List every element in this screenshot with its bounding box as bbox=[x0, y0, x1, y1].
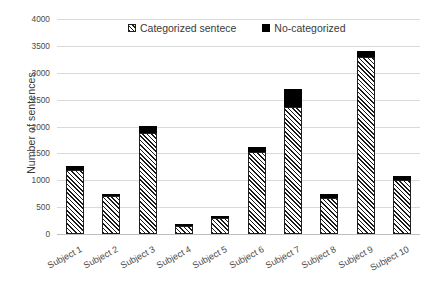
bar-group[interactable] bbox=[393, 176, 411, 234]
bar-segment-categorized[interactable] bbox=[211, 218, 229, 234]
bar-group[interactable] bbox=[284, 89, 302, 234]
bar-segment-no-categorized[interactable] bbox=[211, 216, 229, 218]
bar-segment-categorized[interactable] bbox=[175, 226, 193, 234]
bar-segment-categorized[interactable] bbox=[248, 152, 266, 234]
legend-label: Categorized sentece bbox=[140, 22, 236, 34]
x-tick-label: Subject 4 bbox=[149, 244, 193, 273]
bar-segment-no-categorized[interactable] bbox=[248, 147, 266, 152]
y-tick-label: 1000 bbox=[16, 175, 50, 185]
x-tick-label: Subject 5 bbox=[185, 244, 229, 273]
bar-segment-categorized[interactable] bbox=[357, 57, 375, 234]
legend-label: No-categorized bbox=[274, 22, 345, 34]
x-tick-label: Subject 2 bbox=[77, 244, 121, 273]
hatch-swatch-icon bbox=[128, 24, 136, 32]
bar-segment-categorized[interactable] bbox=[284, 107, 302, 234]
x-tick-label: Subject 6 bbox=[222, 244, 266, 273]
y-tick-label: 2500 bbox=[16, 95, 50, 105]
y-tick-label: 4000 bbox=[16, 14, 50, 24]
y-tick-label: 1500 bbox=[16, 148, 50, 158]
y-tick-label: 0 bbox=[16, 229, 50, 239]
bar-group[interactable] bbox=[357, 51, 375, 234]
bar-segment-no-categorized[interactable] bbox=[102, 194, 120, 196]
bar-group[interactable] bbox=[175, 226, 193, 234]
y-tick-label: 500 bbox=[16, 202, 50, 212]
bar-segment-categorized[interactable] bbox=[139, 133, 157, 234]
x-axis-tick-labels: Subject 1Subject 2Subject 3Subject 4Subj… bbox=[57, 238, 420, 292]
legend-entry[interactable]: Categorized sentece bbox=[128, 22, 236, 34]
x-tick-label: Subject 3 bbox=[113, 244, 157, 273]
legend: Categorized senteceNo-categorized bbox=[128, 22, 346, 34]
x-tick-label: Subject 8 bbox=[294, 244, 338, 273]
bar-segment-categorized[interactable] bbox=[66, 170, 84, 234]
y-tick-label: 2000 bbox=[16, 122, 50, 132]
x-tick-label: Subject 7 bbox=[258, 244, 302, 273]
solid-swatch-icon bbox=[262, 24, 270, 32]
bar-segment-no-categorized[interactable] bbox=[175, 224, 193, 226]
plot-area bbox=[57, 19, 420, 234]
bar-segment-categorized[interactable] bbox=[102, 196, 120, 234]
bar-group[interactable] bbox=[66, 166, 84, 234]
bar-segment-no-categorized[interactable] bbox=[357, 51, 375, 56]
bar-segment-categorized[interactable] bbox=[393, 180, 411, 234]
bar-group[interactable] bbox=[102, 195, 120, 234]
bar-group[interactable] bbox=[139, 126, 157, 234]
y-tick-label: 3000 bbox=[16, 68, 50, 78]
bars-layer bbox=[57, 19, 420, 234]
bar-segment-no-categorized[interactable] bbox=[393, 176, 411, 180]
bar-segment-categorized[interactable] bbox=[320, 198, 338, 234]
bar-segment-no-categorized[interactable] bbox=[66, 166, 84, 170]
bar-segment-no-categorized[interactable] bbox=[139, 126, 157, 133]
bar-group[interactable] bbox=[320, 194, 338, 234]
y-tick-label: 3500 bbox=[16, 41, 50, 51]
bar-chart: Number of sentences 40003500300025002000… bbox=[0, 0, 436, 292]
bar-segment-no-categorized[interactable] bbox=[320, 194, 338, 198]
x-tick-label: Subject 10 bbox=[367, 244, 411, 273]
bar-group[interactable] bbox=[211, 218, 229, 234]
gridline bbox=[57, 234, 420, 235]
bar-segment-no-categorized[interactable] bbox=[284, 89, 302, 107]
x-tick-label: Subject 9 bbox=[331, 244, 375, 273]
bar-group[interactable] bbox=[248, 147, 266, 234]
x-tick-label: Subject 1 bbox=[40, 244, 84, 273]
legend-entry[interactable]: No-categorized bbox=[262, 22, 345, 34]
